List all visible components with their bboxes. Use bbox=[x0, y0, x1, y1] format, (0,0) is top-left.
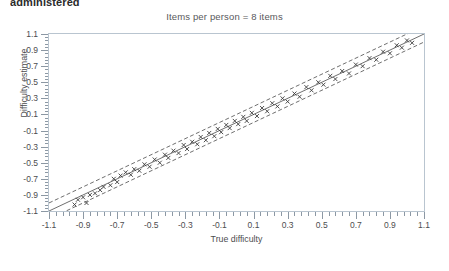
y-tick-label: 0.7 bbox=[26, 61, 38, 71]
x-tick-minor bbox=[315, 212, 316, 216]
scatter-plot-svg bbox=[49, 34, 424, 211]
x-tick-minor bbox=[404, 212, 405, 216]
data-point bbox=[182, 143, 186, 147]
data-point bbox=[73, 203, 77, 207]
data-point bbox=[195, 142, 199, 146]
data-point bbox=[166, 156, 170, 160]
x-tick-minor bbox=[49, 212, 50, 216]
x-tick-minor bbox=[294, 212, 295, 216]
x-tick-minor bbox=[192, 212, 193, 216]
data-point bbox=[281, 96, 285, 100]
data-point bbox=[304, 85, 308, 89]
x-tick-minor bbox=[124, 212, 125, 216]
x-tick-minor bbox=[90, 212, 91, 216]
data-point bbox=[115, 180, 119, 184]
x-tick-minor bbox=[76, 212, 77, 216]
data-point bbox=[265, 109, 269, 113]
x-tick-minor bbox=[199, 212, 200, 216]
x-tick-minor bbox=[390, 212, 391, 216]
x-tick-minor bbox=[165, 212, 166, 216]
data-point bbox=[185, 147, 189, 151]
data-point bbox=[212, 134, 216, 138]
x-tick-minor bbox=[172, 212, 173, 216]
y-tick-label: 0.3 bbox=[26, 93, 38, 103]
data-point bbox=[410, 41, 414, 45]
y-tick-label: -1.1 bbox=[23, 206, 38, 216]
x-axis-ticks bbox=[48, 212, 425, 220]
x-tick-minor bbox=[247, 212, 248, 216]
x-tick-minor bbox=[144, 212, 145, 216]
x-tick-minor bbox=[281, 212, 282, 216]
x-tick-label: -0.5 bbox=[144, 220, 159, 230]
data-point bbox=[400, 46, 404, 50]
x-tick-minor bbox=[97, 212, 98, 216]
x-tick-minor bbox=[397, 212, 398, 216]
page-header-text: administered bbox=[10, 0, 170, 9]
y-tick-label: -0.1 bbox=[23, 126, 38, 136]
x-tick-minor bbox=[63, 212, 64, 216]
x-tick-minor bbox=[329, 212, 330, 216]
x-tick-minor bbox=[151, 212, 152, 216]
plot-area bbox=[48, 33, 425, 212]
x-tick-minor bbox=[376, 212, 377, 216]
x-axis-tick-labels: -1.1-0.9-0.7-0.5-0.3-0.10.10.30.50.70.91… bbox=[48, 220, 425, 234]
data-point bbox=[388, 51, 392, 55]
plot-inner bbox=[49, 34, 424, 211]
x-tick-label: 0.7 bbox=[350, 220, 362, 230]
y-tick-label: -0.7 bbox=[23, 174, 38, 184]
data-point bbox=[275, 104, 279, 108]
data-point bbox=[250, 111, 254, 115]
x-tick-label: -0.9 bbox=[76, 220, 91, 230]
chart-title: Items per person = 8 items bbox=[0, 11, 449, 22]
x-tick-minor bbox=[110, 212, 111, 216]
x-tick-minor bbox=[335, 212, 336, 216]
data-point bbox=[228, 126, 232, 130]
data-point bbox=[148, 165, 152, 169]
x-axis-title: True difficulty bbox=[48, 234, 425, 244]
x-tick-minor bbox=[206, 212, 207, 216]
data-point bbox=[93, 191, 97, 195]
x-tick-label: -1.1 bbox=[42, 220, 57, 230]
x-tick-minor bbox=[424, 212, 425, 216]
data-point bbox=[199, 135, 203, 139]
data-point bbox=[374, 58, 378, 62]
x-tick-minor bbox=[301, 212, 302, 216]
x-tick-minor bbox=[213, 212, 214, 216]
data-point bbox=[286, 100, 290, 104]
x-tick-minor bbox=[104, 212, 105, 216]
data-point bbox=[347, 71, 351, 75]
x-tick-label: -0.7 bbox=[110, 220, 125, 230]
x-tick-minor bbox=[349, 212, 350, 216]
x-tick-label: 0.5 bbox=[316, 220, 328, 230]
x-tick-minor bbox=[179, 212, 180, 216]
x-tick-minor bbox=[308, 212, 309, 216]
x-tick-minor bbox=[233, 212, 234, 216]
y-tick-label: 0.9 bbox=[26, 45, 38, 55]
x-tick-minor bbox=[240, 212, 241, 216]
x-tick-minor bbox=[267, 212, 268, 216]
page-header: administered bbox=[10, 0, 170, 10]
data-point bbox=[328, 74, 332, 78]
y-tick-label: 0.1 bbox=[26, 109, 38, 119]
y-tick-label: 1.1 bbox=[26, 29, 38, 39]
data-point bbox=[260, 106, 264, 110]
data-point bbox=[219, 130, 223, 134]
data-point bbox=[129, 173, 133, 177]
x-tick-minor bbox=[356, 212, 357, 216]
x-tick-minor bbox=[219, 212, 220, 216]
data-point bbox=[270, 101, 274, 105]
x-tick-minor bbox=[260, 212, 261, 216]
x-tick-label: -0.3 bbox=[178, 220, 193, 230]
data-point bbox=[321, 83, 325, 87]
x-tick-minor bbox=[342, 212, 343, 216]
data-point bbox=[333, 77, 337, 81]
data-point bbox=[236, 122, 240, 126]
data-point bbox=[204, 138, 208, 142]
x-tick-minor bbox=[158, 212, 159, 216]
data-point bbox=[241, 115, 245, 119]
x-tick-label: 0.3 bbox=[282, 220, 294, 230]
data-point bbox=[177, 151, 181, 155]
data-point bbox=[124, 170, 128, 174]
x-tick-minor bbox=[288, 212, 289, 216]
x-tick-minor bbox=[83, 212, 84, 216]
